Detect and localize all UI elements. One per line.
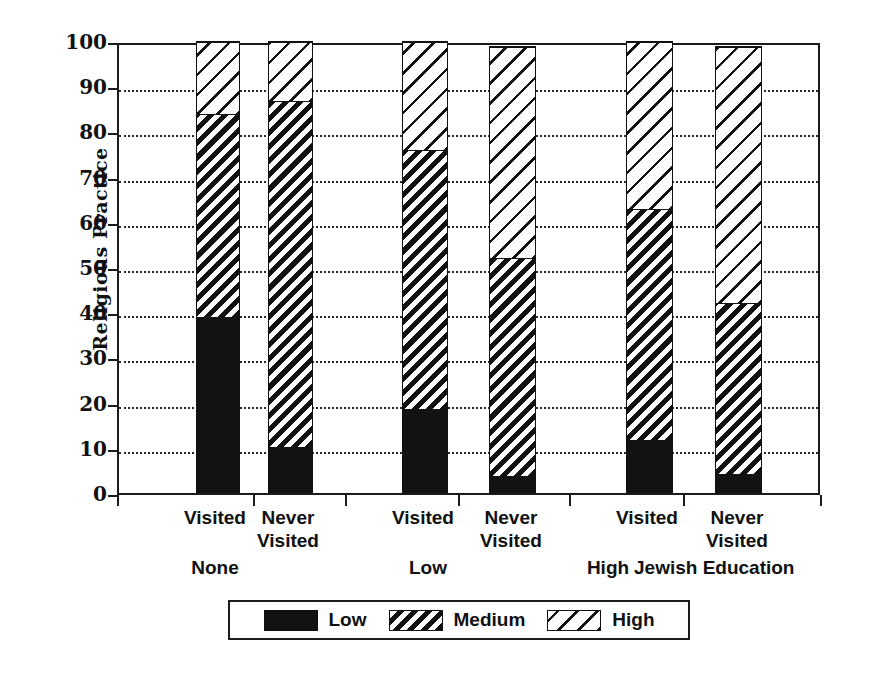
- legend-entry: Low: [264, 609, 367, 631]
- plot-area: [117, 43, 820, 495]
- legend-entry: High: [547, 609, 654, 631]
- x-tick-mark: [117, 495, 119, 506]
- y-tick-mark: [108, 224, 117, 226]
- legend-swatch-high: [547, 610, 601, 631]
- x-tick-mark: [569, 495, 571, 506]
- y-tick-label: 100: [51, 32, 107, 52]
- y-tick-label: 90: [51, 77, 107, 97]
- y-tick-mark: [108, 179, 117, 181]
- y-tick-mark: [108, 133, 117, 135]
- y-tick-mark: [108, 88, 117, 90]
- bar-segment-high: [716, 47, 761, 303]
- legend-swatch-low: [264, 610, 318, 631]
- y-tick-label: 20: [51, 394, 107, 414]
- y-tick-mark: [108, 43, 117, 45]
- bar-segment-medium: [490, 258, 535, 476]
- stacked-bar: [196, 41, 240, 493]
- y-tick-label: 50: [51, 258, 107, 278]
- stacked-bar: [268, 41, 313, 493]
- bar-segment-high: [627, 42, 672, 209]
- bar-segment-high: [403, 42, 447, 150]
- bar-segment-high: [197, 42, 239, 114]
- stacked-bar: [402, 41, 448, 493]
- x-tick-mark: [253, 495, 255, 506]
- bar-segment-low: [490, 476, 535, 492]
- y-tick-mark: [108, 495, 117, 497]
- y-tick-label: 70: [51, 168, 107, 188]
- legend-label: Low: [329, 609, 367, 631]
- bar-segment-low: [716, 474, 761, 492]
- y-tick-mark: [108, 269, 117, 271]
- bar-segment-low: [269, 447, 312, 492]
- legend-swatch-medium: [389, 610, 443, 631]
- legend-entry: Medium: [389, 609, 526, 631]
- x-tick-mark: [820, 495, 822, 506]
- group-label: Low: [358, 557, 498, 579]
- group-label: None: [145, 557, 285, 579]
- x-tick-mark: [345, 495, 347, 506]
- x-tick-mark: [458, 495, 460, 506]
- y-tick-mark: [108, 405, 117, 407]
- x-axis-title: Jewish Education: [634, 557, 794, 579]
- x-tick-mark: [683, 495, 685, 506]
- y-tick-label: 10: [51, 439, 107, 459]
- bar-segment-medium: [269, 101, 312, 448]
- legend-label: High: [612, 609, 654, 631]
- bar-segment-low: [197, 317, 239, 493]
- y-tick-label: 60: [51, 213, 107, 233]
- chart-legend: LowMediumHigh: [228, 600, 690, 640]
- bar-segment-medium: [197, 114, 239, 317]
- stacked-bar: [626, 41, 673, 493]
- y-tick-label: 0: [51, 484, 107, 504]
- stacked-bar: [489, 46, 536, 493]
- bar-segment-high: [269, 42, 312, 101]
- y-tick-mark: [108, 314, 117, 316]
- bar-segment-medium: [716, 303, 761, 474]
- bar-segment-low: [403, 409, 447, 492]
- y-tick-label: 40: [51, 303, 107, 323]
- bar-segment-medium: [627, 209, 672, 441]
- stacked-bar: [715, 46, 762, 493]
- y-tick-mark: [108, 359, 117, 361]
- y-tick-label: 30: [51, 348, 107, 368]
- bar-segment-low: [627, 440, 672, 492]
- y-tick-label: 80: [51, 122, 107, 142]
- legend-label: Medium: [454, 609, 526, 631]
- bar-segment-medium: [403, 150, 447, 409]
- y-tick-mark: [108, 450, 117, 452]
- x-axis-label: Never Visited: [657, 506, 817, 552]
- bar-segment-high: [490, 47, 535, 258]
- chart-figure: Religious Practice 100908070605040302010…: [0, 0, 878, 677]
